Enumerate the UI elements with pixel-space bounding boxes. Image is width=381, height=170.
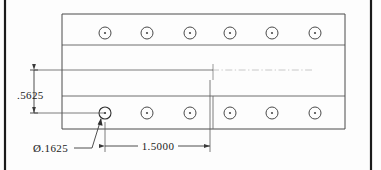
hole [224, 107, 236, 119]
dimension-5625: .5625 [17, 70, 213, 113]
top-hole-row [99, 27, 321, 39]
hole [266, 27, 278, 39]
hole [309, 107, 321, 119]
dimension-diameter-1625-label: Ø.1625 [33, 142, 68, 154]
drawing-canvas: .5625 1.5000 Ø.1625 [0, 0, 381, 170]
hole [184, 27, 196, 39]
hole [99, 27, 111, 39]
hole [266, 107, 278, 119]
hole [224, 27, 236, 39]
cad-drawing-svg: .5625 1.5000 Ø.1625 [0, 0, 381, 170]
dimension-15000-label: 1.5000 [142, 140, 175, 152]
hole [309, 27, 321, 39]
dimension-5625-label: .5625 [17, 89, 44, 101]
part-outline [62, 14, 345, 129]
dimension-diameter-1625: Ø.1625 [33, 118, 103, 154]
hole [141, 107, 153, 119]
hole [141, 27, 153, 39]
horizontal-centerline [212, 64, 312, 80]
hole [184, 107, 196, 119]
leader-arrowhead [98, 118, 103, 126]
dimension-15000: 1.5000 [105, 80, 210, 152]
